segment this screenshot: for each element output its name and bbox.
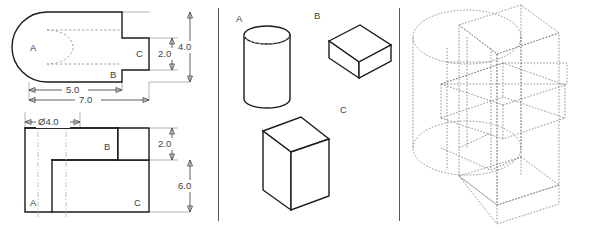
part-b-flat-box: B <box>314 10 391 78</box>
component-parts-panel: A B C <box>218 0 399 229</box>
cylinder-body <box>244 35 290 108</box>
dimension-text-2-0-top: 2.0 <box>158 48 171 59</box>
assembly-wireframe <box>413 5 567 224</box>
isometric-assembly-svg <box>399 0 603 229</box>
front-view-block-c <box>118 128 149 160</box>
orthographic-views-svg: A B C 5.0 7.0 <box>0 0 218 229</box>
assembly-chord-mid <box>459 133 491 148</box>
assembly-block-top-right-edge <box>503 63 565 85</box>
dimension-text-diameter: Ø4.0 <box>38 116 59 127</box>
top-view: A B C 5.0 7.0 <box>12 12 200 106</box>
part-b-label: B <box>314 10 320 21</box>
orthographic-views-panel: A B C 5.0 7.0 <box>0 0 218 229</box>
dimension-text-6-0: 6.0 <box>178 180 191 191</box>
part-a-label: A <box>236 13 243 24</box>
assembly-chord-bottom-right <box>491 157 521 170</box>
top-view-label-b: B <box>110 69 116 80</box>
dimension-diameter: Ø4.0 <box>25 116 80 128</box>
assembly-plate-bottom-right <box>521 157 559 185</box>
assembly-flange-right-edge <box>497 204 559 224</box>
part-a-cylinder: A <box>236 13 290 108</box>
front-view-label-a: A <box>30 197 37 208</box>
dimension-text-4-0: 4.0 <box>178 41 191 52</box>
assembly-flange-left-edge <box>459 176 497 224</box>
top-view-label-c: C <box>136 48 143 59</box>
plate-right-face <box>291 139 329 210</box>
figure-canvas: A B C 5.0 7.0 <box>0 0 603 229</box>
part-c-label: C <box>340 104 347 115</box>
part-c-plate: C <box>263 104 347 210</box>
front-view-label-c: C <box>134 197 141 208</box>
assembly-flange-bottom <box>459 176 559 205</box>
dimension-4-0: 4.0 <box>176 12 200 82</box>
front-view: A B C Ø4.0 2.0 <box>25 112 200 218</box>
assembly-block-top-face <box>441 63 567 84</box>
dimension-6-0: 6.0 <box>176 160 200 212</box>
dimension-text-5-0: 5.0 <box>66 84 79 95</box>
assembly-plate-right-face <box>497 33 559 205</box>
dimension-text-2-0-front: 2.0 <box>158 138 171 149</box>
assembly-chord-bottom-left <box>441 148 491 170</box>
front-view-label-b: B <box>104 141 110 152</box>
assembly-block-top-left-edge <box>441 63 503 84</box>
isometric-assembly-panel <box>399 0 603 229</box>
assembly-block-top-front-edge <box>441 84 503 105</box>
dimension-2-0-front: 2.0 <box>156 128 180 160</box>
dimension-7-0: 7.0 <box>29 94 149 106</box>
component-parts-svg: A B C <box>218 0 399 229</box>
assembly-block-top-back-edge <box>503 85 565 105</box>
dimension-text-7-0: 7.0 <box>79 94 92 105</box>
assembly-cylinder-bottom <box>413 121 521 175</box>
top-view-label-a: A <box>30 42 37 53</box>
assembly-plate-top-face <box>459 5 559 54</box>
